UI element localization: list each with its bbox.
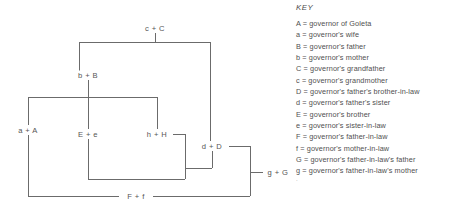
key-entry-c: c = governor's grandmother	[296, 75, 451, 86]
diagram-edges-svg	[0, 0, 265, 217]
key-entry-clipped: h =	[296, 177, 451, 181]
key-entry-g: g = governor's father-in-law's mother	[296, 165, 451, 176]
key-panel: KEY A = governor of Goleta a = governor'…	[296, 3, 451, 217]
node-a-plus-A: a + A	[16, 126, 40, 135]
key-title: KEY	[296, 3, 451, 12]
key-entry-b: b = governor's mother	[296, 52, 451, 63]
key-entry-G: G = governor's father-in-law's father	[296, 154, 451, 165]
edge-hH-to-junction	[173, 134, 185, 168]
kinship-diagram: c + C b + B a + A E + e h + H d + D F + …	[0, 0, 265, 217]
node-g-plus-G: g + G	[266, 168, 291, 177]
node-E-plus-e: E + e	[76, 130, 100, 139]
key-entry-C: C = governor's grandfather	[296, 63, 451, 74]
key-entry-list: A = governor of Goleta a = governor's wi…	[296, 18, 451, 181]
key-entry-f: f = governor's mother-in-law	[296, 143, 451, 154]
key-entry-d: d = governor's father's sister	[296, 97, 451, 108]
node-h-plus-H: h + H	[145, 130, 169, 139]
edge-Ee-to-junction	[88, 139, 185, 179]
node-c-plus-C: c + C	[143, 24, 167, 33]
node-F-plus-f: F + f	[125, 192, 146, 201]
key-entry-B: B = governor's father	[296, 41, 451, 52]
key-entry-F: F = governor's father-in-law	[296, 131, 451, 142]
key-entry-a: a = governor's wife	[296, 29, 451, 40]
key-entry-D: D = governor's father's brother-in-law	[296, 86, 451, 97]
key-entry-A: A = governor of Goleta	[296, 18, 451, 29]
node-d-plus-D: d + D	[200, 142, 224, 151]
key-entry-E: E = governor's brother	[296, 109, 451, 120]
key-entry-e: e = governor's sister-in-law	[296, 120, 451, 131]
node-b-plus-B: b + B	[76, 71, 100, 80]
